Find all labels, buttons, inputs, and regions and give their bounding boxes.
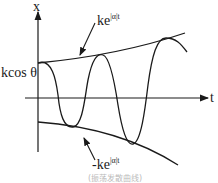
lower-envelope-label: -ke|α|t bbox=[92, 158, 120, 172]
oscillation-curve bbox=[38, 38, 187, 144]
lower-envelope-base: -ke bbox=[92, 157, 110, 172]
lower-envelope-exponent: |α|t bbox=[110, 156, 120, 165]
figure-caption: (振荡发散曲线) bbox=[60, 172, 170, 183]
upper-envelope-label: ke|α|t bbox=[97, 14, 120, 28]
upper-envelope-pointer bbox=[80, 23, 95, 55]
y-axis-label: x bbox=[33, 0, 40, 14]
x-axis-label: t bbox=[210, 91, 214, 105]
upper-envelope-exponent: |α|t bbox=[110, 12, 120, 21]
upper-envelope-base: ke bbox=[97, 13, 110, 28]
initial-value-label: kcos θ bbox=[1, 66, 37, 80]
upper-envelope-curve bbox=[38, 33, 185, 63]
